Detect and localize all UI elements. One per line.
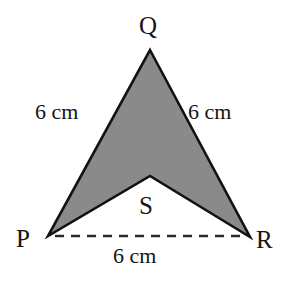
- measure-label-side-pq: 6 cm: [35, 101, 78, 123]
- measure-label-side-pr: 6 cm: [113, 245, 156, 267]
- vertex-label-r: R: [256, 227, 273, 252]
- vertex-label-q: Q: [139, 13, 157, 38]
- vertex-label-s: S: [139, 193, 153, 218]
- vertex-label-p: P: [16, 226, 30, 251]
- measure-label-side-qr: 6 cm: [188, 101, 231, 123]
- geometry-figure: Q R S P 6 cm 6 cm 6 cm: [0, 0, 292, 284]
- arrowhead-shape-svg: [0, 0, 292, 284]
